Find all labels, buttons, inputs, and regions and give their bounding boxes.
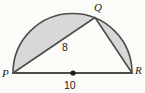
- vertex-label-r: R: [134, 64, 142, 76]
- vertex-label-p: P: [1, 67, 9, 79]
- measurement-chord-pq: 8: [62, 41, 68, 53]
- vertex-label-q: Q: [94, 1, 102, 13]
- geometry-diagram: P Q R 8 10: [0, 0, 145, 93]
- measurement-diameter-pr: 10: [64, 79, 76, 91]
- center-dot: [70, 70, 75, 75]
- semicircle-triangle-figure: P Q R 8 10: [0, 0, 145, 93]
